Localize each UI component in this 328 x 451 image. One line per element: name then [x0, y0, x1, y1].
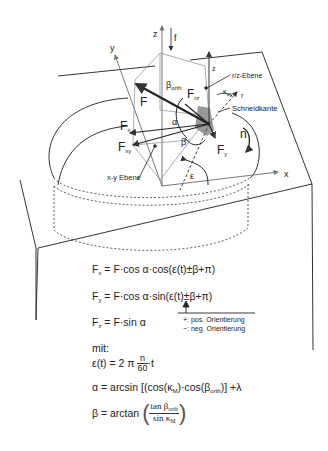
fxy-label: Fxy — [118, 141, 131, 154]
formula-fx: Fx = F·cos α·cos(ε(t)±β+π) — [92, 264, 215, 276]
rotation-n-label: n — [240, 128, 247, 140]
fy-label: Fy — [217, 144, 227, 157]
cutting-path-cylinder — [49, 98, 259, 250]
xy-plane-label: x-y Ebene — [107, 174, 141, 182]
cutting-edge-label: Schneidkante — [232, 105, 277, 113]
z-local-label: z — [212, 65, 216, 72]
epsilon-label: ε — [190, 172, 194, 181]
fx-label: Fx — [120, 120, 130, 133]
x-axis-label: x — [284, 170, 289, 179]
f-label: F — [140, 96, 147, 108]
alpha-label: α — [172, 118, 177, 127]
pos-orientation: +: pos. Orientierung — [183, 316, 245, 325]
workpiece-block — [20, 52, 313, 350]
beta-label: β — [181, 138, 186, 147]
formula-fz: Fz = F·sin α — [92, 317, 146, 329]
y-axis-label: y — [110, 44, 115, 53]
beta-orth-label: βorth — [166, 81, 182, 91]
kappa-vy-label: κvy — [223, 88, 233, 97]
mit-label: mit: — [92, 343, 109, 354]
formula-fy: Fy = F·cos α·sin(ε(t)±β+π) — [92, 291, 212, 303]
formula-epsilon: ε(t) = 2 π n60·t — [92, 354, 154, 374]
neg-orientation: −: neg. Orientierung — [183, 325, 245, 334]
orientation-note: +: pos. Orientierung −: neg. Orientierun… — [183, 316, 245, 334]
rz-plane-label: r/z-Ebene — [232, 72, 262, 79]
formula-beta: β = arctan (tan βorthsin κM) — [92, 402, 186, 424]
z-axis-label: z — [153, 30, 158, 39]
formula-alpha: α = arcsin [(cos(κM)·cos(βorth)] +λ — [92, 382, 241, 394]
frz-label: Frz — [187, 88, 199, 101]
feed-label: f — [174, 34, 177, 43]
r-axis-label: r — [241, 92, 243, 99]
